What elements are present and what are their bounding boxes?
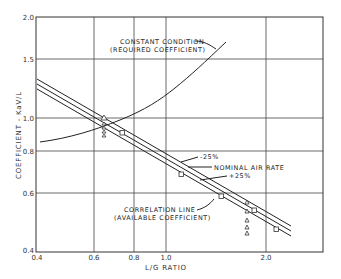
chart: CONSTANT CONDITION (REQUIRED COEFFICIENT… xyxy=(0,0,341,279)
svg-text:1.5: 1.5 xyxy=(23,56,34,64)
svg-text:0.6: 0.6 xyxy=(88,254,100,262)
svg-text:0.8: 0.8 xyxy=(128,254,139,262)
svg-text:0.4: 0.4 xyxy=(31,254,43,262)
svg-text:2.0: 2.0 xyxy=(260,254,271,262)
plus-25-label: +25% xyxy=(229,172,251,180)
y-axis-ticks: 2.0 1.5 1.0 0.8 0.6 0.4 xyxy=(23,14,35,255)
x-axis-label: L/G RATIO xyxy=(145,264,187,272)
constant-condition-label: CONSTANT CONDITION xyxy=(120,38,204,46)
svg-text:0.6: 0.6 xyxy=(23,190,35,198)
required-coefficient-label: (REQUIRED COEFFICIENT) xyxy=(110,46,206,54)
required-coefficient-curve xyxy=(40,42,226,142)
nominal-air-rate-label: NOMINAL AIR RATE xyxy=(214,164,284,172)
available-coefficient-label: (AVAILABLE COEFFICIENT) xyxy=(114,214,211,222)
svg-text:1.0: 1.0 xyxy=(23,115,34,123)
correlation-line-label: CORRELATION LINE xyxy=(124,206,196,214)
y-axis-label: COEFFICIENT - KaV/L xyxy=(15,91,23,179)
x-axis-ticks: 0.4 0.6 0.8 1.0 2.0 xyxy=(31,254,271,262)
svg-text:1.0: 1.0 xyxy=(160,254,171,262)
stacked-markers xyxy=(102,122,106,137)
minus-25-label: -25% xyxy=(200,153,219,161)
svg-text:0.8: 0.8 xyxy=(23,148,34,156)
svg-text:2.0: 2.0 xyxy=(23,14,34,22)
